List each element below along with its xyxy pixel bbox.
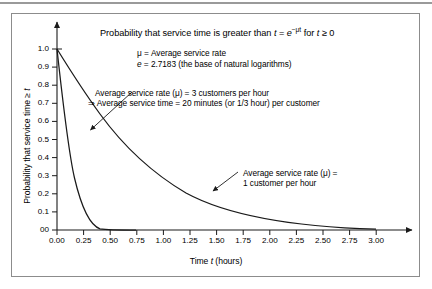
y-tick-label: 1.0 <box>18 44 49 53</box>
annotation-slow-line2: 1 customer per hour <box>243 178 316 188</box>
curve-mu-3 <box>57 49 136 230</box>
y-tick-label: 0.2 <box>18 189 49 198</box>
x-axis-ticks <box>57 230 376 235</box>
y-tick-label: 0.3 <box>18 171 49 180</box>
y-tick-label: 0.7 <box>18 98 49 107</box>
y-tick-label: 0.9 <box>18 62 49 71</box>
chart-title-lead: Probability that service time is greater… <box>100 28 274 38</box>
y-axis-title-prefix: Probability that service time ≥ <box>22 91 32 204</box>
chart-title-ge-zero: ≥ 0 <box>319 28 334 38</box>
annotation-fast-line1: Average service rate (μ) = 3 customers p… <box>95 88 269 98</box>
x-axis-title: Time t (hours) <box>0 256 432 266</box>
legend-mu-definition: μ = Average service rate <box>137 48 226 58</box>
chart-title-exponent: −μt <box>292 26 301 33</box>
annotation-fast-line2: ⇒ Average service time = 20 minutes (or … <box>88 98 320 108</box>
legend-e-definition: e = 2.7183 (the base of natural logarith… <box>137 59 291 69</box>
y-tick-label: 00 <box>18 225 49 234</box>
y-tick-label: 0.5 <box>18 135 49 144</box>
x-tick-label: 3.00 <box>360 236 392 245</box>
annotation-slow-line1: Average service rate (μ) = <box>243 168 337 178</box>
x-axis-title-suffix: (hours) <box>213 256 242 266</box>
chart-title: Probability that service time is greater… <box>100 25 334 38</box>
curve-mu-1 <box>57 49 376 229</box>
y-tick-label: 0.4 <box>18 153 49 162</box>
x-axis-title-prefix: Time <box>190 256 211 266</box>
y-tick-label: 0.6 <box>18 116 49 125</box>
y-tick-label: 0.1 <box>18 207 49 216</box>
chart-title-equals: = <box>276 28 286 38</box>
y-tick-label: 0.8 <box>18 80 49 89</box>
chart-title-for: for <box>301 28 317 38</box>
chart-plot-area <box>0 0 432 289</box>
leader-line-slow <box>213 172 238 191</box>
legend-e-text: = 2.7183 (the base of natural logarithms… <box>142 59 292 69</box>
